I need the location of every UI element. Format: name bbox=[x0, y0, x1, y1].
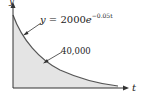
curve-equation-label: y = 2000e−0.05t bbox=[40, 12, 113, 25]
x-axis-label: t bbox=[132, 82, 136, 93]
curve-leader-arrow-icon bbox=[23, 31, 29, 36]
x-axis-arrow-icon bbox=[123, 86, 129, 91]
y-axis-label: y bbox=[9, 0, 14, 6]
equation-exponent: −0.05t bbox=[92, 12, 113, 19]
equation-equals: = bbox=[46, 14, 61, 25]
equation-coefficient: 2000 bbox=[60, 14, 85, 25]
area-value-label: 40,000 bbox=[61, 46, 91, 56]
